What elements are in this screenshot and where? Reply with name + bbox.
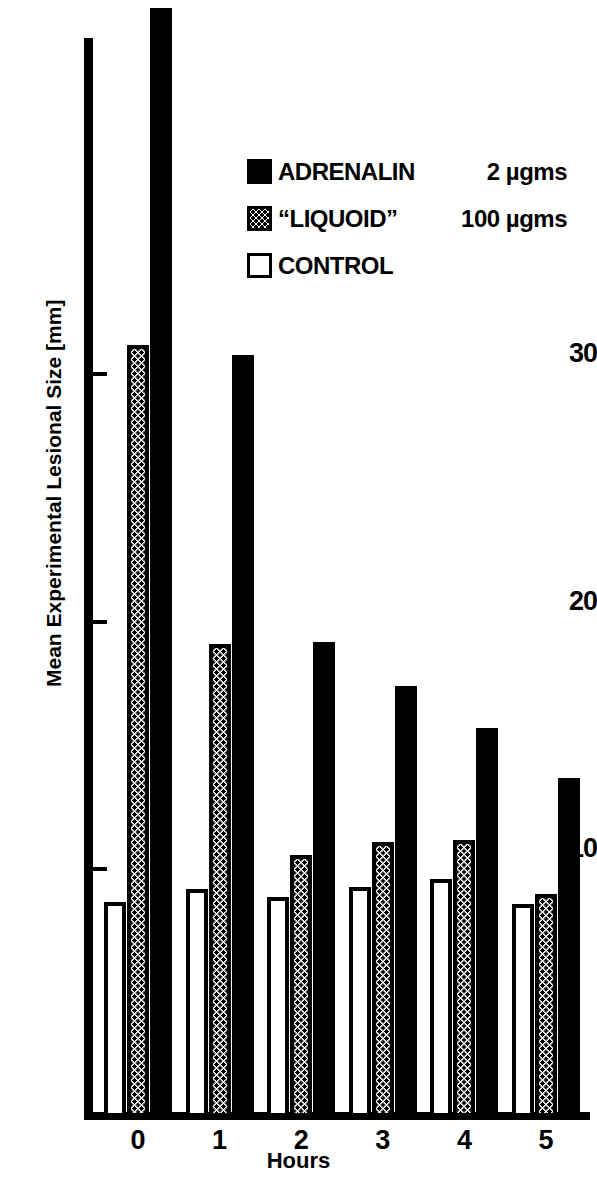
bar-adrenalin-hour-1	[232, 355, 254, 1117]
y-tick-mark-10	[93, 867, 107, 871]
bar-liquoid-hour-0	[127, 345, 149, 1117]
bar-control-hour-0	[104, 902, 126, 1117]
legend-dose-adrenalin: 2 µgms	[487, 158, 567, 186]
y-axis-label: Mean Experimental Lesional Size [mm]	[42, 377, 66, 687]
bar-adrenalin-hour-3	[395, 686, 417, 1117]
bar-control-hour-3	[349, 887, 371, 1117]
bar-control-hour-4	[430, 879, 452, 1117]
solid-black-swatch-icon	[247, 159, 272, 184]
bar-adrenalin-hour-2	[313, 642, 335, 1117]
y-tick-label-30: 30	[515, 340, 597, 367]
y-tick-label-10: 10	[515, 835, 597, 862]
bar-adrenalin-hour-4	[476, 728, 498, 1117]
bar-chart-figure: 30 20 10 Mean Experimental Lesional Size…	[0, 0, 597, 1179]
y-tick-label-20: 20	[515, 588, 597, 615]
bar-liquoid-hour-3	[372, 842, 394, 1117]
legend-row-adrenalin: ADRENALIN 2 µgms	[247, 148, 577, 195]
legend-label-adrenalin: ADRENALIN	[278, 158, 415, 186]
stippled-swatch-icon	[247, 206, 272, 231]
bar-liquoid-hour-5	[535, 894, 557, 1117]
legend-row-liquoid: “LIQUOID” 100 µgms	[247, 195, 577, 242]
bar-liquoid-hour-2	[290, 855, 312, 1117]
bar-adrenalin-hour-5	[558, 778, 580, 1117]
bar-control-hour-2	[267, 897, 289, 1117]
bar-control-hour-1	[186, 889, 208, 1117]
legend-row-control: CONTROL	[247, 242, 577, 289]
bar-control-hour-5	[512, 904, 534, 1117]
bar-liquoid-hour-1	[209, 644, 231, 1117]
y-axis-line	[84, 38, 93, 1119]
bar-liquoid-hour-4	[453, 840, 475, 1117]
white-open-swatch-icon	[247, 253, 272, 278]
legend-label-liquoid: “LIQUOID”	[278, 205, 398, 233]
bar-adrenalin-hour-0	[150, 8, 172, 1117]
legend: ADRENALIN 2 µgms “LIQUOID” 100 µgms CONT…	[247, 148, 577, 289]
y-tick-mark-30	[93, 372, 107, 376]
x-axis-label: Hours	[0, 1148, 597, 1174]
legend-label-control: CONTROL	[278, 252, 393, 280]
legend-dose-liquoid: 100 µgms	[461, 205, 567, 233]
y-tick-mark-20	[93, 620, 107, 624]
